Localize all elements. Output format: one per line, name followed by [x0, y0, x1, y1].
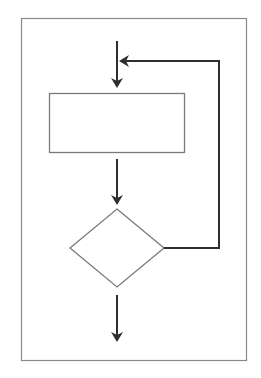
loop-back-arrow [121, 61, 219, 248]
process-box [50, 94, 185, 153]
flowchart-canvas [0, 0, 261, 378]
decision-diamond [70, 209, 164, 287]
flowchart-svg [0, 0, 261, 378]
outer-frame [22, 19, 247, 361]
